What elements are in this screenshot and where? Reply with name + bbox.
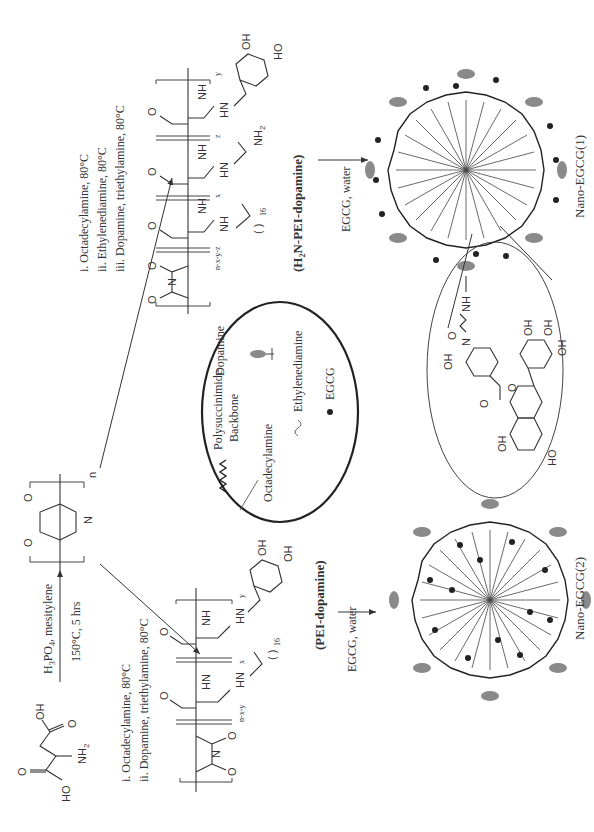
inset-pyrogallol-ring xyxy=(520,340,552,368)
inset-o-ester2: O xyxy=(478,399,490,408)
left-o-b: O xyxy=(158,627,170,636)
label-o2: O xyxy=(66,719,78,728)
polysuccinimide-structure: O O N n xyxy=(22,472,98,570)
right-subscript-nxyz: n-x-y-z xyxy=(213,246,222,270)
right-branch-arrow xyxy=(100,178,172,468)
left-oh-2: OH xyxy=(282,545,294,562)
left-cond-2: ii. Dopamine, triethylamine, 80°C xyxy=(137,619,151,782)
right-c18-paren: ( ) xyxy=(252,224,264,234)
right-hn-dopa: HN xyxy=(218,102,230,118)
right-subscript-y: y xyxy=(213,72,222,76)
right-polymer-structure: O O N O O O NH NH NH NH HN HN ( ) 16 NH2… xyxy=(146,33,284,314)
left-route-conditions: i. Octadecylamine, 80°C ii. Dopamine, tr… xyxy=(119,619,151,782)
egcg-inset: NH N OH O O O OH OH OH OH HO xyxy=(427,242,568,498)
inset-aromatic-ring xyxy=(510,418,542,450)
psi-o-left: O xyxy=(22,538,34,547)
dopamine-symbol-icon xyxy=(250,350,266,358)
inset-callout-line-2 xyxy=(500,226,552,280)
left-polymer-structure: O O N O O HN NH HN HN ( ) 16 OH OH n-x-y… xyxy=(158,539,294,792)
right-hn-eda: HN xyxy=(218,162,230,178)
legend-ethylenediamine: Ethylenediamine xyxy=(291,331,305,412)
label-o: O xyxy=(16,767,28,776)
right-cond-1: i. Octadecylamine, 80°C xyxy=(77,154,91,272)
left-polymer-name: (PEI-dopamine) xyxy=(312,560,327,650)
step1-reagent: H3PO4, mesitylene xyxy=(41,584,57,674)
psi-n: N xyxy=(82,516,94,524)
left-hn-dopa: HN xyxy=(234,608,246,624)
legend-backbone-line1: Polysuccinimide xyxy=(211,370,225,450)
right-cond-2: ii. Ethylenediamine, 80°C xyxy=(95,147,109,272)
right-ring-o2: O xyxy=(146,261,158,270)
inset-callout-line-1 xyxy=(448,234,472,328)
left-ring-o1: O xyxy=(226,767,238,776)
left-cond-1: i. Octadecylamine, 80°C xyxy=(119,664,133,782)
right-nh-c: NH xyxy=(196,84,208,100)
right-nh2: NH2 xyxy=(252,125,267,146)
right-o-c: O xyxy=(146,107,158,116)
left-ring-o2: O xyxy=(226,731,238,740)
nano-egcg2-micelle xyxy=(389,499,591,701)
right-cond-3: iii. Dopamine, triethylamine, 80°C xyxy=(113,105,127,272)
right-ring-n: N xyxy=(166,278,178,286)
micelle-chains xyxy=(420,530,560,670)
step1-conditions: 150°C, 5 hrs xyxy=(69,601,83,662)
legend-backbone-line2: Backbone xyxy=(227,394,241,442)
label-nh2: NH2 xyxy=(76,743,91,764)
right-ring-o1: O xyxy=(146,295,158,304)
diagram-stage: HO O NH2 OH O H3PO4, mesitylene 150°C, 5… xyxy=(0,0,594,832)
reaction-scheme: HO O NH2 OH O H3PO4, mesitylene 150°C, 5… xyxy=(0,0,594,832)
right-o-b: O xyxy=(146,167,158,176)
psi-o-right: O xyxy=(22,493,34,502)
inset-oh-3: OH xyxy=(542,319,554,336)
legend-dopamine: Dopamine xyxy=(213,326,227,376)
right-oh-2: HO xyxy=(272,43,284,60)
inset-n: N xyxy=(460,338,472,346)
inset-oh-5: OH xyxy=(496,435,508,452)
octadecylamine-symbol-icon xyxy=(240,480,258,510)
left-final-step: EGCG, water xyxy=(345,607,359,672)
inset-nh: NH xyxy=(460,296,472,312)
inset-oh-4: OH xyxy=(556,339,568,356)
inset-o-1: O xyxy=(446,331,458,340)
left-nh-a: HN xyxy=(200,674,212,690)
right-final-step: EGCG, water xyxy=(339,167,353,232)
left-hn-c18: HN xyxy=(234,672,246,688)
right-o-a: O xyxy=(146,221,158,230)
inset-oh-2: OH xyxy=(522,319,534,336)
psi-n-subscript: n xyxy=(86,472,98,478)
left-subscript-y: y xyxy=(237,594,246,598)
left-o-a: O xyxy=(158,691,170,700)
left-oh-1: OH xyxy=(256,539,268,556)
nano-egcg1-micelle xyxy=(365,69,567,271)
left-nh-b: NH xyxy=(200,610,212,626)
egcg-symbol-icon xyxy=(327,409,333,415)
aspartic-acid-structure: HO O NH2 OH O xyxy=(16,703,91,802)
right-subscript-x: x xyxy=(213,194,222,198)
step1-arrow-group: H3PO4, mesitylene 150°C, 5 hrs xyxy=(41,570,83,682)
inset-ho: HO xyxy=(546,449,558,466)
ethylenediamine-symbol-icon xyxy=(295,420,301,436)
rotated-frame: HO O NH2 OH O H3PO4, mesitylene 150°C, 5… xyxy=(0,0,594,832)
left-c18-subscript: 16 xyxy=(273,638,282,646)
inset-ellipse xyxy=(427,242,563,498)
right-route-conditions: i. Octadecylamine, 80°C ii. Ethylenediam… xyxy=(77,105,127,272)
left-subscript-x: x xyxy=(237,660,246,664)
right-polymer-name: (H2N-PEI-dopamine) xyxy=(290,155,307,272)
right-nh-b: NH xyxy=(196,144,208,160)
label-oh: OH xyxy=(34,703,46,720)
legend-panel: Polysuccinimide Backbone Dopamine Octade… xyxy=(202,302,358,522)
legend-egcg: EGCG xyxy=(323,367,337,400)
right-nh-a: NH xyxy=(196,198,208,214)
right-oh-1: OH xyxy=(240,33,252,50)
left-subscript-nxy: n-x-y xyxy=(237,705,246,722)
right-nh-c18: NH xyxy=(218,216,230,232)
nano-egcg2-label: Nano-EGCG(2) xyxy=(572,557,587,640)
right-c18-subscript: 16 xyxy=(259,208,268,216)
nano-egcg1-label: Nano-EGCG(1) xyxy=(572,135,587,218)
label-ho: HO xyxy=(60,785,72,802)
left-ring-n: N xyxy=(210,750,222,758)
legend-octadecylamine: Octadecylamine xyxy=(261,424,275,502)
right-subscript-z: z xyxy=(213,134,222,138)
left-c18-paren: ( ) xyxy=(266,650,278,660)
inset-galloyl-ring xyxy=(466,348,498,376)
